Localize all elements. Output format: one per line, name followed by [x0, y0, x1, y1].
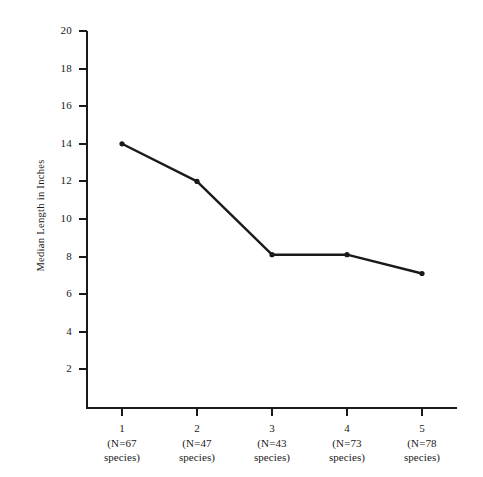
data-point-marker	[344, 252, 349, 257]
data-point-marker	[419, 271, 424, 276]
data-point-marker	[269, 252, 274, 257]
chart-figure: Median Length in Inches 2468101214161820…	[0, 0, 483, 477]
data-markers	[119, 141, 424, 276]
data-point-marker	[194, 179, 199, 184]
data-point-marker	[119, 141, 124, 146]
plot-area	[0, 0, 483, 477]
